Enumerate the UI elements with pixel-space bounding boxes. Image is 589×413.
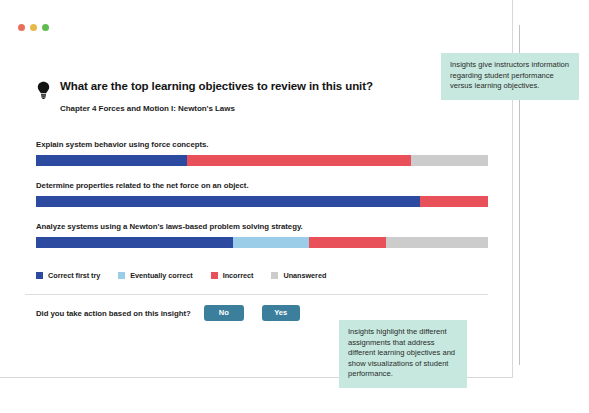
action-question-label: Did you take action based on this insigh… (36, 309, 191, 318)
window-controls (18, 24, 49, 31)
bar-segment (36, 196, 420, 207)
lightbulb-icon (36, 81, 51, 99)
annotation-callout-top: Insights give instructors information re… (441, 53, 579, 100)
bar-segment (36, 237, 233, 248)
page-title: What are the top learning objectives to … (60, 80, 373, 93)
objective-item: Analyze systems using a Newton's laws-ba… (36, 222, 488, 248)
objective-bar[interactable] (36, 237, 488, 248)
minimize-icon[interactable] (30, 24, 37, 31)
no-button[interactable]: No (204, 305, 244, 321)
objective-item: Explain system behavior using force conc… (36, 140, 488, 166)
legend-label: Eventually correct (130, 271, 192, 280)
action-row: Did you take action based on this insigh… (36, 305, 300, 321)
chart-legend: Correct first tryEventually correctIncor… (36, 271, 326, 280)
objective-item: Determine properties related to the net … (36, 181, 488, 207)
legend-label: Incorrect (223, 271, 254, 280)
insight-header: What are the top learning objectives to … (36, 80, 466, 113)
bar-segment (187, 155, 411, 166)
objective-label: Determine properties related to the net … (36, 181, 488, 190)
legend-label: Unanswered (283, 271, 326, 280)
legend-swatch-icon (118, 272, 125, 279)
bar-segment (309, 237, 386, 248)
bar-segment (386, 237, 488, 248)
legend-item[interactable]: Eventually correct (118, 271, 192, 280)
bar-segment (420, 196, 488, 207)
bar-segment (36, 155, 187, 166)
bar-segment (233, 237, 310, 248)
legend-swatch-icon (211, 272, 218, 279)
objective-bar[interactable] (36, 196, 488, 207)
bar-segment (411, 155, 488, 166)
yes-button[interactable]: Yes (262, 305, 300, 321)
objective-label: Analyze systems using a Newton's laws-ba… (36, 222, 488, 231)
close-icon[interactable] (18, 24, 25, 31)
legend-label: Correct first try (48, 271, 100, 280)
header-row: What are the top learning objectives to … (36, 80, 466, 99)
objective-bar[interactable] (36, 155, 488, 166)
annotation-callout-bottom: Insights highlight the different assignm… (339, 320, 467, 388)
legend-item[interactable]: Correct first try (36, 271, 100, 280)
objectives-list: Explain system behavior using force conc… (36, 140, 488, 263)
legend-item[interactable]: Unanswered (271, 271, 326, 280)
maximize-icon[interactable] (42, 24, 49, 31)
legend-swatch-icon (36, 272, 43, 279)
page-subtitle: Chapter 4 Forces and Motion I: Newton's … (60, 104, 466, 113)
legend-item[interactable]: Incorrect (211, 271, 254, 280)
legend-swatch-icon (271, 272, 278, 279)
section-divider (25, 294, 488, 295)
objective-label: Explain system behavior using force conc… (36, 140, 488, 149)
